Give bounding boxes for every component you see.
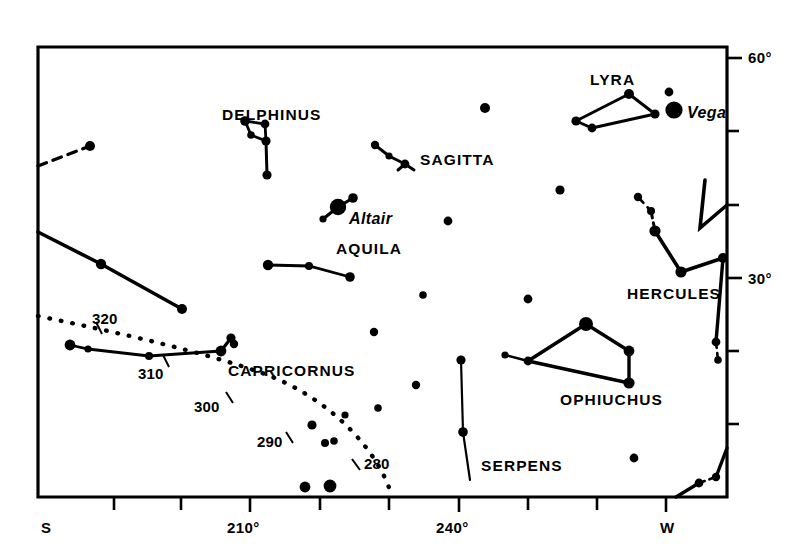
axis-label-210: 210° (227, 519, 260, 536)
star-dot (247, 131, 255, 139)
star-dot (85, 141, 95, 151)
label-hercules: HERCULES (627, 285, 721, 302)
star-dot (665, 88, 674, 97)
star-dot (624, 346, 635, 357)
star-dot (263, 260, 273, 270)
ecliptic-label-300: 300 (194, 398, 220, 415)
star-dot (712, 473, 720, 481)
star-dot (226, 333, 235, 342)
star-dot (695, 479, 704, 488)
axis-label-south: S (41, 519, 51, 536)
star-chart: 60° 30° S 210° 240° W 320 310 300 290 28… (0, 0, 802, 559)
star-dot (714, 356, 722, 364)
star-dot (665, 101, 682, 118)
label-delphinus: DELPHINUS (222, 106, 321, 123)
star-dot (330, 199, 346, 215)
star-dot (65, 340, 76, 351)
star-dot (96, 259, 106, 269)
star-dot (579, 317, 593, 331)
label-sagitta: SAGITTA (420, 151, 495, 168)
star-dot (624, 89, 634, 99)
star-dot (307, 420, 316, 429)
axis-label-60: 60° (748, 49, 772, 66)
star-dot (177, 304, 187, 314)
star-dot (261, 136, 270, 145)
axis-label-west: W (660, 519, 675, 536)
star-dot (262, 170, 271, 179)
star-dot (718, 253, 728, 263)
label-capricornus: CAPRICORNUS (228, 362, 356, 379)
star-dot (341, 411, 348, 418)
ecliptic-label-280: 280 (364, 455, 390, 472)
line-delphinus-tail (266, 141, 267, 175)
ecliptic-label-290: 290 (257, 433, 283, 450)
star-dot (300, 482, 311, 493)
star-dot (588, 124, 597, 133)
star-dot (321, 439, 329, 447)
star-dot (647, 207, 655, 215)
star-dot (401, 160, 410, 169)
star-dot (84, 345, 91, 352)
star-dot (623, 377, 634, 388)
label-serpens: SERPENS (481, 457, 563, 474)
axis-label-30: 30° (748, 270, 772, 287)
star-dot (524, 295, 533, 304)
star-dot (458, 427, 468, 437)
star-dot (480, 103, 490, 113)
star-dot (319, 215, 326, 222)
label-ophiuchus: OPHIUCHUS (560, 391, 663, 408)
star-dot (555, 185, 564, 194)
star-dot (630, 454, 639, 463)
star-dot (330, 437, 338, 445)
label-altair: Altair (348, 210, 393, 227)
label-aquila: AQUILA (336, 240, 402, 257)
star-dot (345, 272, 355, 282)
star-dot (216, 346, 227, 357)
star-dot (501, 351, 508, 358)
star-dot (348, 193, 358, 203)
star-dot (571, 116, 580, 125)
star-dot (650, 109, 659, 118)
star-dot (371, 141, 379, 149)
ecliptic-label-320: 320 (92, 310, 118, 327)
star-dot (419, 291, 427, 299)
star-dot (634, 193, 642, 201)
star-dot (145, 352, 153, 360)
star-dot (675, 266, 686, 277)
star-dot (649, 225, 660, 236)
chart-background (0, 0, 802, 559)
star-dot (456, 355, 465, 364)
star-dot (524, 357, 533, 366)
star-dot (374, 404, 382, 412)
ecliptic-label-310: 310 (138, 365, 164, 382)
star-dot (385, 152, 392, 159)
label-vega: Vega (687, 104, 726, 121)
star-dot (444, 217, 453, 226)
label-lyra: LYRA (590, 71, 635, 88)
star-dot (305, 262, 313, 270)
star-dot (712, 338, 721, 347)
star-dot (412, 381, 420, 389)
star-dot (370, 328, 378, 336)
star-dot (324, 480, 337, 493)
axis-label-240: 240° (436, 519, 469, 536)
